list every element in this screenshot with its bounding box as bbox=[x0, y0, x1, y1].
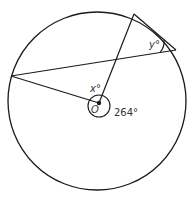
radius-top bbox=[99, 14, 134, 103]
radius-left bbox=[11, 76, 99, 103]
angle-y-label: y° bbox=[148, 39, 160, 50]
angle-x-label: x° bbox=[89, 83, 101, 94]
circle-diagram: x° y° O 264° bbox=[0, 0, 195, 199]
chord-left-right bbox=[11, 50, 176, 76]
center-label: O bbox=[91, 104, 99, 115]
reflex-angle-label: 264° bbox=[114, 107, 138, 118]
